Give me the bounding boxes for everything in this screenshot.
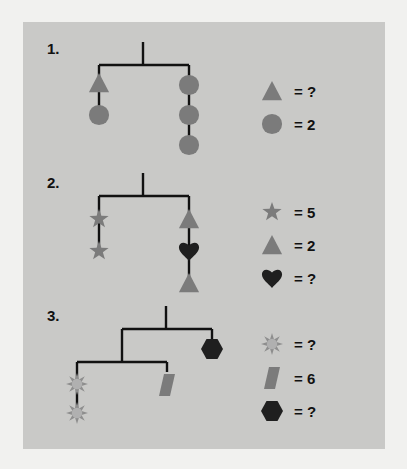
legend-parallelogram-icon <box>264 367 280 389</box>
mobiles-diagram <box>0 0 407 469</box>
circle-icon <box>179 75 199 95</box>
problem-2-number: 2. <box>47 174 60 191</box>
problem-3-number: 3. <box>47 307 60 324</box>
problem-3-legend-parallelogram-value: = 6 <box>294 370 315 387</box>
heart-icon <box>179 243 199 261</box>
legend-heart-icon <box>262 270 282 288</box>
mobile-1 <box>99 42 189 145</box>
problem-2-legend-triangle-value: = 2 <box>294 237 315 254</box>
circle-icon <box>89 105 109 125</box>
problem-1-legend-circle-value: = 2 <box>294 116 315 133</box>
problem-1-number: 1. <box>47 40 60 57</box>
legend-star-icon <box>262 202 281 220</box>
problem-2-legend-heart-value: = ? <box>294 270 316 287</box>
problem-3-legend-hexagon-value: = ? <box>294 403 316 420</box>
mobile-2 <box>99 173 189 285</box>
sun-icon <box>66 373 88 395</box>
star-icon <box>89 241 108 259</box>
legend-circle-icon <box>262 114 282 134</box>
parallelogram-icon <box>159 374 175 396</box>
triangle-icon <box>89 73 109 92</box>
problem-1-legend-triangle-value: = ? <box>294 83 316 100</box>
legend-triangle-icon <box>262 81 282 100</box>
sun-icon <box>66 402 88 424</box>
circle-icon <box>179 135 199 155</box>
triangle-icon <box>179 209 199 228</box>
legend-triangle-icon <box>262 235 282 254</box>
triangle-icon <box>179 273 199 292</box>
problem-2-legend-star-value: = 5 <box>294 204 315 221</box>
hexagon-icon <box>201 339 223 359</box>
mobile-3 <box>77 306 212 413</box>
problem-3-legend-sun-value: = ? <box>294 336 316 353</box>
legend-sun-icon <box>261 333 283 355</box>
circle-icon <box>179 105 199 125</box>
legend-hexagon-icon <box>261 401 283 421</box>
